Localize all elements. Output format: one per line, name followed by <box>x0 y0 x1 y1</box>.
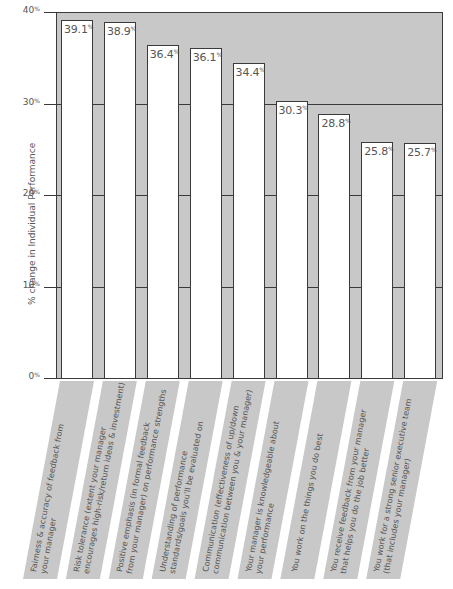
bar-chart: % change in Individual Performance 0%10%… <box>0 0 453 589</box>
